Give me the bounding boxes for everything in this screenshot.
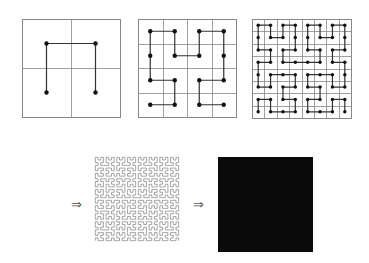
curve-vertex-dot — [222, 103, 226, 107]
curve-vertex-dot — [173, 78, 177, 82]
curve-vertex-dot — [197, 103, 201, 107]
curve-vertex-dot — [306, 61, 309, 64]
curve-vertex-dot — [256, 98, 259, 101]
curve-vertex-dot — [294, 61, 297, 64]
curve-vertex-dot — [148, 29, 152, 33]
curve-vertex-dot — [281, 73, 284, 76]
hilbert-curve-diagram — [0, 0, 369, 263]
panel-order-2 — [138, 19, 237, 118]
curve-vertex-dot — [343, 61, 346, 64]
curve-vertex-dot — [318, 73, 321, 76]
curve-vertex-dot — [281, 61, 284, 64]
curve-vertex-dot — [318, 98, 321, 101]
panel-limit — [218, 157, 313, 252]
curve-vertex-dot — [294, 36, 297, 39]
curve-vertex-dot — [294, 48, 297, 51]
curve-vertex-dot — [331, 48, 334, 51]
arrow-2: ⇒ — [193, 198, 204, 211]
grid-border — [253, 20, 352, 119]
curve-vertex-dot — [294, 110, 297, 113]
curve-vertex-dot — [269, 98, 272, 101]
curve-vertex-dot — [173, 54, 177, 58]
curve-vertex-dot — [256, 36, 259, 39]
curve-vertex-dot — [294, 98, 297, 101]
curve-vertex-dot — [343, 36, 346, 39]
curve-vertex-dot — [148, 78, 152, 82]
curve-vertex-dot — [269, 85, 272, 88]
hilbert-curve — [95, 157, 178, 240]
curve-vertex-dot — [294, 23, 297, 26]
filled-square — [218, 157, 313, 252]
curve-vertex-dot — [281, 36, 284, 39]
curve-vertex-dot — [306, 98, 309, 101]
panel-order-high — [95, 157, 178, 240]
curve-vertex-dot — [306, 23, 309, 26]
curve-vertex-dot — [256, 110, 259, 113]
curve-vertex-dot — [197, 29, 201, 33]
curve-vertex-dot — [294, 85, 297, 88]
curve-vertex-dot — [281, 48, 284, 51]
curve-vertex-dot — [343, 48, 346, 51]
curve-vertex-dot — [269, 48, 272, 51]
curve-vertex-dot — [331, 98, 334, 101]
curve-vertex-dot — [331, 36, 334, 39]
curve-vertex-dot — [343, 110, 346, 113]
curve-vertex-dot — [331, 61, 334, 64]
curve-vertex-dot — [331, 73, 334, 76]
curve-vertex-dot — [331, 110, 334, 113]
curve-vertex-dot — [269, 61, 272, 64]
curve-vertex-dot — [343, 23, 346, 26]
curve-vertex-dot — [222, 29, 226, 33]
curve-vertex-dot — [222, 54, 226, 58]
curve-vertex-dot — [306, 73, 309, 76]
curve-vertex-dot — [343, 85, 346, 88]
curve-vertex-dot — [256, 73, 259, 76]
curve-vertex-dot — [281, 85, 284, 88]
curve-vertex-dot — [222, 78, 226, 82]
curve-vertex-dot — [281, 110, 284, 113]
curve-vertex-dot — [318, 36, 321, 39]
curve-vertex-dot — [269, 36, 272, 39]
curve-vertex-dot — [318, 48, 321, 51]
curve-vertex-dot — [331, 85, 334, 88]
curve-vertex-dot — [173, 103, 177, 107]
curve-vertex-dot — [306, 110, 309, 113]
panel-order-3 — [252, 19, 352, 119]
curve-vertex-dot — [343, 73, 346, 76]
curve-vertex-dot — [93, 41, 97, 45]
curve-vertex-dot — [306, 85, 309, 88]
curve-vertex-dot — [173, 29, 177, 33]
curve-vertex-dot — [331, 23, 334, 26]
curve-vertex-dot — [318, 61, 321, 64]
curve-vertex-dot — [148, 54, 152, 58]
panel-order-1 — [22, 19, 121, 118]
curve-vertex-dot — [318, 85, 321, 88]
curve-vertex-dot — [44, 90, 48, 94]
curve-vertex-dot — [256, 48, 259, 51]
curve-vertex-dot — [281, 23, 284, 26]
curve-vertex-dot — [256, 85, 259, 88]
curve-vertex-dot — [197, 54, 201, 58]
curve-vertex-dot — [269, 73, 272, 76]
curve-vertex-dot — [269, 110, 272, 113]
curve-vertex-dot — [343, 98, 346, 101]
curve-vertex-dot — [294, 73, 297, 76]
curve-vertex-dot — [256, 61, 259, 64]
curve-vertex-dot — [269, 23, 272, 26]
curve-vertex-dot — [318, 110, 321, 113]
curve-vertex-dot — [197, 78, 201, 82]
curve-vertex-dot — [93, 90, 97, 94]
curve-vertex-dot — [306, 48, 309, 51]
curve-vertex-dot — [148, 103, 152, 107]
curve-vertex-dot — [306, 36, 309, 39]
arrow-1: ⇒ — [71, 198, 82, 211]
curve-vertex-dot — [256, 23, 259, 26]
curve-vertex-dot — [281, 98, 284, 101]
hilbert-curve — [47, 44, 96, 93]
curve-vertex-dot — [318, 23, 321, 26]
curve-vertex-dot — [44, 41, 48, 45]
